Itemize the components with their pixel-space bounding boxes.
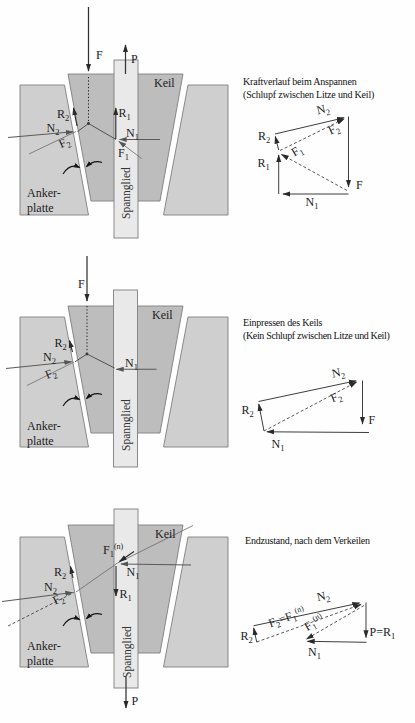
section-1-caption: Kraftverlauf beim Anspannen (Schlupf zwi… — [243, 76, 374, 102]
section-1-force-polygon: R1 R2 N2 F2 F N1 F1 — [258, 101, 364, 211]
section-2-force-polygon: R2 N2 F2 F N1 — [242, 364, 376, 452]
wedge-label-2: Keil — [152, 308, 173, 322]
poly1-F-label: F — [356, 178, 363, 192]
wedge-label-3: Keil — [155, 527, 176, 541]
tendon-label-1: Spannglied — [120, 167, 133, 219]
poly3-N1-label: N1 — [308, 645, 321, 661]
poly1-F1 — [282, 155, 348, 191]
poly1-R2 — [275, 137, 278, 151]
tendon-label-3: Spannglied — [121, 626, 134, 678]
tendon-label-2: Spannglied — [120, 399, 133, 451]
poly1-N1-label: N1 — [306, 195, 319, 211]
section-1-mechanism: Spannglied F P N2 F2 R2 R1 N1 F1 Keil An… — [8, 7, 228, 238]
poly1-F2-label: F2 — [326, 120, 343, 139]
section-2-mechanism: Spannglied F N2 F2 R2 N1 Keil Anker- pla… — [6, 256, 228, 467]
plate-label-line1-1: Anker- — [27, 186, 61, 200]
poly3-N2-label: N2 — [315, 588, 331, 606]
poly2-F2-label: F2 — [328, 388, 344, 407]
caption-line1-1: Kraftverlauf beim Anspannen — [243, 76, 357, 87]
section-3-caption: Endzustand, nach dem Verkeilen — [245, 535, 370, 546]
caption-line2-1: (Schlupf zwischen Litze und Keil) — [243, 89, 374, 101]
poly2-R2 — [259, 404, 264, 431]
force-label-F-1: F — [96, 48, 103, 62]
poly2-F-label: F — [369, 413, 376, 427]
poly3-R2-label: R2 — [241, 629, 253, 645]
plate-label-line2-1: platte — [27, 201, 54, 215]
poly2-N1-label: N1 — [272, 437, 285, 453]
plate-label-line2-2: platte — [27, 434, 54, 448]
caption-line1-3: Endzustand, nach dem Verkeilen — [245, 535, 370, 546]
poly1-N2-label: N2 — [315, 101, 331, 120]
caption-line2-2: (Kein Schlupf zwischen Litze und Keil) — [243, 330, 389, 342]
caption-line1-2: Einpressen des Keils — [243, 317, 323, 328]
poly2-N1 — [267, 432, 369, 433]
poly1-F1-label: F1 — [289, 142, 306, 161]
force-label-P-3: P — [132, 694, 139, 708]
poly2-F2 — [264, 382, 357, 431]
poly3-N1 — [308, 641, 367, 642]
section-3-force-polygon: R2 N2 F2=F1(n) F1(n) P=R1 N1 — [241, 588, 396, 661]
section-3-mechanism: Spannglied P F1(n) N1 R1 N2 F2 R2 Keil A… — [2, 509, 228, 708]
poly3-R2 — [254, 628, 257, 642]
wedge-anchorage-figure: Spannglied F P N2 F2 R2 R1 N1 F1 Keil An… — [0, 0, 415, 723]
wedge-label-1: Keil — [154, 76, 175, 90]
plate-label-line1-3: Anker- — [27, 639, 61, 653]
force-label-F-2: F — [78, 277, 85, 291]
plate-label-line1-2: Anker- — [27, 419, 61, 433]
figure-page: Spannglied F P N2 F2 R2 R1 N1 F1 Keil An… — [0, 0, 415, 723]
poly2-R2-label: R2 — [242, 403, 254, 419]
force-label-P-1: P — [131, 52, 138, 66]
poly1-R2-label: R2 — [258, 129, 270, 145]
plate-label-line2-3: platte — [27, 654, 54, 668]
poly2-N2-label: N2 — [330, 364, 346, 382]
poly1-R1-label: R1 — [258, 156, 270, 172]
poly3-PR1-label: P=R1 — [370, 625, 396, 641]
poly3-F2F1n-label: F2=F1(n) — [266, 604, 308, 633]
section-2-caption: Einpressen des Keils (Kein Schlupf zwisc… — [243, 317, 389, 342]
